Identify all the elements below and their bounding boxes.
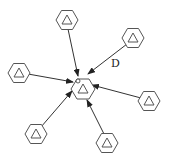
node-center — [71, 79, 95, 99]
hexagon-icon — [8, 64, 30, 83]
edge-label-d: D — [111, 57, 120, 70]
node-bottom-right — [96, 134, 118, 153]
node-right — [138, 92, 160, 111]
hexagon-icon — [71, 79, 95, 99]
star-network-diagram: D — [0, 0, 170, 166]
hexagon-icon — [56, 11, 78, 30]
hexagon-icon — [122, 29, 144, 48]
hexagon-icon — [138, 92, 160, 111]
hexagon-icon — [96, 134, 118, 153]
node-upper-right — [122, 29, 144, 48]
hexagon-icon — [25, 125, 47, 144]
node-left — [8, 64, 30, 83]
edge-top — [68, 29, 78, 76]
edge-right — [92, 85, 141, 98]
node-bottom-left — [25, 125, 47, 144]
node-top — [56, 11, 78, 30]
edge-bottom-right — [87, 100, 104, 134]
edge-bottom-left — [41, 91, 72, 127]
edge-upper-right — [88, 44, 127, 74]
small-circle-marker — [76, 79, 80, 83]
edge-left — [28, 74, 73, 82]
